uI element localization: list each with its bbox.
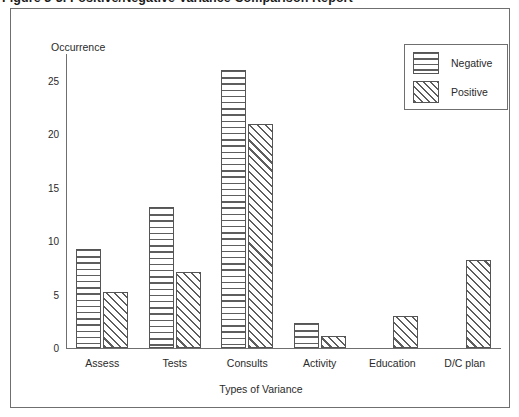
chart-frame: Occurrence 0510152025 AssessTestsConsult… [10,8,510,408]
legend-label-negative: Negative [451,57,492,69]
bar-education-positive [393,316,418,348]
y-axis-tick-10: 10 [48,236,59,247]
bar-group-tests [139,55,212,348]
bar-activity-negative [294,323,319,348]
y-axis-tick-0: 0 [53,343,59,354]
bar-assess-positive [103,292,128,348]
legend-item-positive: Positive [413,81,488,103]
legend-label-positive: Positive [451,86,488,98]
x-axis-label-activity: Activity [303,357,336,369]
bar-group-consults [211,55,284,348]
bar-consults-positive [248,124,273,349]
bar-consults-negative [221,70,246,348]
y-axis-tick-15: 15 [48,182,59,193]
bar-tests-negative [149,207,174,348]
bar-tests-positive [176,272,201,348]
legend-item-negative: Negative [413,52,492,74]
x-axis-label-assess: Assess [85,357,119,369]
bar-group-activity [284,55,357,348]
figure-caption: Figure 3-3. Positive/Negative Variance C… [2,0,517,7]
x-axis-label-consults: Consults [227,357,268,369]
x-axis-line [66,348,501,349]
chart-legend: Negative Positive [404,44,508,110]
y-axis-tick-20: 20 [48,129,59,140]
legend-swatch-positive-icon [413,81,439,103]
x-axis-label-tests: Tests [162,357,187,369]
y-axis-tick-5: 5 [53,289,59,300]
legend-swatch-negative-icon [413,52,439,74]
x-axis-label-education: Education [369,357,416,369]
bar-assess-negative [76,249,101,348]
bar-group-assess [66,55,139,348]
y-axis-tick-25: 25 [48,75,59,86]
y-axis-title: Occurrence [51,41,105,53]
bar-activity-positive [321,336,346,348]
bar-d-c-plan-positive [466,260,491,348]
x-axis-label-d-c-plan: D/C plan [444,357,485,369]
x-axis-title: Types of Variance [11,383,511,395]
